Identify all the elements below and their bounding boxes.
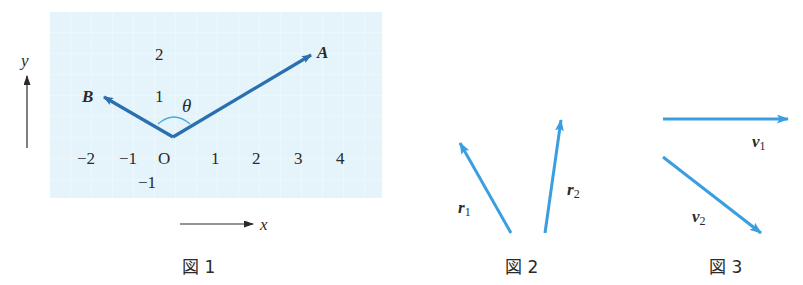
figure-1-caption: 図 1	[182, 257, 215, 277]
y-tick-1: 1	[155, 87, 164, 106]
figure-3: v1 v2 図 3	[663, 119, 788, 277]
grid-background	[50, 12, 382, 198]
x-tick-2: 2	[252, 149, 261, 168]
x-tick-neg2: −2	[77, 149, 95, 168]
vector-r1	[460, 143, 511, 233]
origin-label: O	[158, 149, 170, 168]
vector-r2-label: r2	[567, 180, 580, 201]
figure-canvas: y x −2 −1 O 1 2 3 4 2 1 −1 θ A B 図 1 r1 …	[0, 0, 803, 285]
figure-2: r1 r2 図 2	[458, 120, 580, 277]
vector-r2	[545, 120, 561, 233]
x-axis-label: x	[259, 215, 268, 234]
figure-2-caption: 図 2	[505, 257, 538, 277]
x-tick-3: 3	[294, 149, 303, 168]
vector-r1-label: r1	[458, 198, 471, 219]
y-tick-2: 2	[155, 45, 164, 64]
x-tick-4: 4	[336, 149, 345, 168]
angle-theta-label: θ	[182, 95, 191, 116]
figure-3-caption: 図 3	[709, 257, 742, 277]
x-tick-1: 1	[211, 149, 220, 168]
vector-A-label: A	[316, 43, 328, 62]
figure-1: y x −2 −1 O 1 2 3 4 2 1 −1 θ A B 図 1	[19, 12, 382, 277]
y-tick-neg1: −1	[138, 173, 156, 192]
vector-v2-label: v2	[692, 207, 706, 228]
vector-B-label: B	[81, 87, 93, 106]
y-axis-label: y	[19, 51, 29, 70]
vector-v1-label: v1	[752, 132, 766, 153]
x-tick-neg1: −1	[119, 149, 137, 168]
vector-v2	[663, 157, 761, 233]
